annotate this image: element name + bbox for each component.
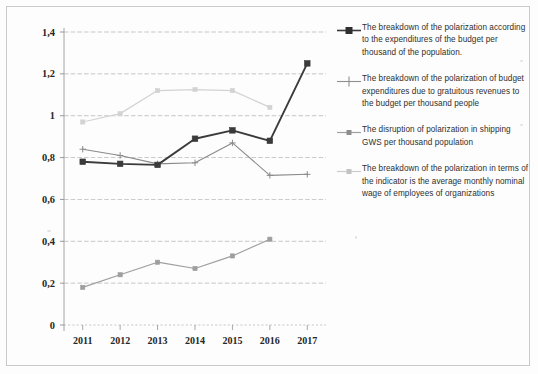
y-axis-tick-label: 0,8 [42, 152, 55, 163]
chart-figure: 00,20,40,60,811,21,420112012201320142015… [0, 0, 538, 374]
scan-speckle [355, 236, 357, 239]
legend-item-label: The breakdown of the polarization accord… [362, 22, 532, 59]
scan-speckle [520, 60, 523, 62]
series-2 [81, 237, 272, 289]
x-axis-tick-label: 2011 [73, 335, 92, 346]
x-axis-tick-label: 2014 [185, 335, 205, 346]
y-axis-tick-label: 1,2 [42, 68, 55, 79]
line-square-marker-icon [336, 165, 362, 178]
x-axis-tick-label: 2012 [110, 335, 130, 346]
y-axis-tick-label: 1,4 [42, 27, 55, 38]
scan-speckle [520, 124, 523, 126]
y-axis-tick-label: 1 [50, 110, 55, 121]
legend-item-2[interactable]: The disruption of polarization in shippi… [336, 124, 532, 149]
legend-item-label: The disruption of polarization in shippi… [362, 124, 532, 149]
x-axis-tick-label: 2013 [148, 335, 168, 346]
legend-item-label: The breakdown of the polarization in ter… [362, 163, 532, 200]
legend-item-3[interactable]: The breakdown of the polarization in ter… [336, 163, 532, 200]
legend-item-1[interactable]: The breakdown of the polarization of bud… [336, 73, 532, 110]
legend-item-label: The breakdown of the polarization of bud… [362, 73, 532, 110]
series-1 [80, 140, 311, 179]
plot-area: 00,20,40,60,811,21,420112012201320142015… [18, 14, 338, 360]
line-square-marker-icon [336, 126, 362, 139]
line-cross-marker-icon [336, 75, 362, 88]
y-axis-tick-label: 0,6 [42, 194, 55, 205]
series-3 [81, 87, 272, 124]
series-0 [80, 61, 310, 168]
x-axis-tick-label: 2017 [297, 335, 317, 346]
y-axis-tick-label: 0 [50, 320, 55, 331]
plot-svg: 00,20,40,60,811,21,420112012201320142015… [18, 14, 338, 360]
chart-legend: The breakdown of the polarization accord… [336, 22, 532, 362]
scan-speckle [47, 230, 51, 232]
line-square-marker-icon [336, 24, 362, 37]
y-axis-tick-label: 0,2 [42, 278, 55, 289]
y-axis-tick-label: 0,4 [42, 236, 55, 247]
x-axis-tick-label: 2016 [260, 335, 280, 346]
x-axis-tick-label: 2015 [222, 335, 242, 346]
legend-item-0[interactable]: The breakdown of the polarization accord… [336, 22, 532, 59]
